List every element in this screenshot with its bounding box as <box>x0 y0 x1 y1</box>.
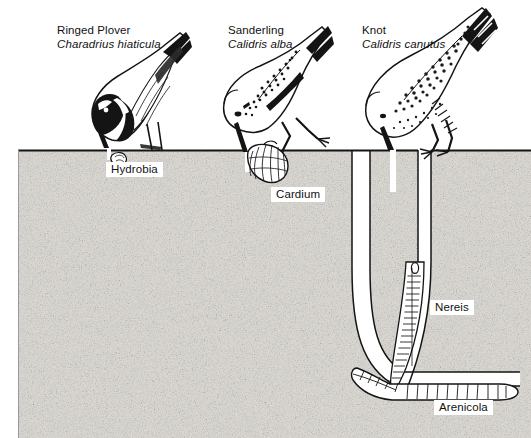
figure-canvas: Ringed Plover Charadrius hiaticula Sande… <box>0 0 531 438</box>
ringed-plover-common-name: Ringed Plover <box>57 24 161 38</box>
label-ringed-plover: Ringed Plover Charadrius hiaticula <box>57 24 161 51</box>
label-knot: Knot Calidris canutus <box>362 24 445 51</box>
knot-scientific-name: Calidris canutus <box>362 38 445 52</box>
prey-label-hydrobia: Hydrobia <box>106 162 163 177</box>
prey-label-arenicola: Arenicola <box>434 400 493 415</box>
sanderling-common-name: Sanderling <box>228 24 293 38</box>
prey-label-cardium: Cardium <box>271 187 325 202</box>
prey-label-nereis: Nereis <box>430 300 474 315</box>
sanderling-scientific-name: Calidris alba <box>228 38 293 52</box>
knot-common-name: Knot <box>362 24 445 38</box>
ringed-plover-scientific-name: Charadrius hiaticula <box>57 38 161 52</box>
illustration-svg <box>0 0 531 438</box>
label-sanderling: Sanderling Calidris alba <box>228 24 293 51</box>
